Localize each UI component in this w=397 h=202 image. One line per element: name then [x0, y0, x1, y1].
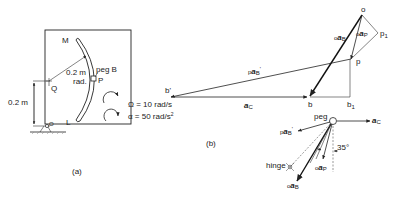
label-peg-paB-prime: paB'	[280, 126, 293, 136]
label-peg-b: peg B	[96, 65, 117, 74]
figure-a: M L P Q O peg B 0.2 m rad. 0.2 m Ω = 10 …	[8, 30, 174, 176]
slot-end-bottom	[76, 120, 80, 122]
label-peg-oaB: oaB	[287, 181, 299, 190]
radial-line-1	[310, 124, 331, 163]
figure-c: peg hinge 35° aC paB' oaP oaB	[266, 112, 381, 190]
label-height: 0.2 m	[8, 98, 28, 107]
hinge-icon	[286, 163, 294, 171]
label-radius-sub: rad.	[73, 77, 87, 86]
line-o-p1	[362, 15, 378, 33]
slot-end-top	[76, 38, 79, 40]
radial-line-2	[316, 124, 331, 159]
label-alpha: α = 50 rad/s2	[128, 111, 174, 121]
label-q: Q	[51, 84, 57, 93]
label-angle: 35°	[337, 143, 349, 152]
rotating-plate	[45, 30, 131, 124]
vector-oaB	[310, 15, 362, 96]
point-p1: p1	[380, 29, 388, 39]
caption-b: (b)	[206, 139, 216, 148]
peg-circle	[330, 118, 337, 125]
label-radius: 0.2 m	[66, 68, 86, 77]
label-aC: aC	[244, 101, 253, 110]
label-peg-oaP: oaP	[315, 163, 327, 172]
point-p: p	[356, 57, 361, 66]
label-p: P	[98, 76, 103, 85]
vector-paB-prime	[171, 59, 351, 97]
label-oaP: oaP	[356, 29, 368, 38]
kinematics-diagram: M L P Q O peg B 0.2 m rad. 0.2 m Ω = 10 …	[0, 0, 397, 202]
label-peg-aC: aC	[372, 116, 381, 125]
label-paB-prime: paB'	[248, 66, 261, 76]
label-omega: Ω = 10 rad/s	[128, 100, 172, 109]
omega-arrow-icon	[103, 92, 118, 103]
point-b1: b1	[347, 100, 355, 110]
point-o: o	[361, 5, 366, 14]
label-o: O	[49, 121, 54, 127]
caption-a: (a)	[72, 167, 82, 176]
peg-vector-oaB	[297, 124, 331, 181]
figure-b: o p p1 b b1 b' oaB oaP paB' aC (b)	[165, 5, 388, 148]
label-m: M	[62, 36, 69, 45]
label-l: L	[66, 118, 71, 127]
label-oaB: oaB	[334, 33, 346, 42]
label-hinge: hinge	[266, 161, 286, 170]
point-b: b	[308, 100, 313, 109]
peg-vector-paB-prime	[298, 122, 330, 131]
alpha-arrow-icon	[104, 109, 118, 121]
label-peg: peg	[314, 112, 327, 121]
point-b-prime: b'	[165, 86, 171, 95]
